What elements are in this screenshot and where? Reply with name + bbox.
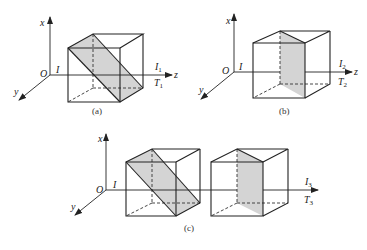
caption-b: (b) bbox=[279, 106, 290, 116]
x-label: x bbox=[97, 133, 103, 144]
figure-a: x y O I z I1 T1 (a) bbox=[13, 17, 178, 116]
origin-label: O bbox=[222, 65, 229, 76]
polarizer-plane-2 bbox=[237, 149, 263, 216]
output-label: I3 bbox=[304, 176, 312, 189]
caption-c: (c) bbox=[184, 223, 194, 233]
y-axis bbox=[201, 72, 234, 99]
x-label: x bbox=[225, 15, 231, 26]
origin-label: O bbox=[96, 184, 103, 195]
output-label: I2 bbox=[338, 58, 346, 71]
z-label: z bbox=[353, 66, 358, 77]
input-label: I bbox=[238, 61, 243, 72]
y-label: y bbox=[70, 201, 76, 212]
y-label: y bbox=[198, 84, 204, 95]
output-label: I1 bbox=[154, 61, 162, 74]
polarizer-plane-1 bbox=[126, 149, 200, 216]
z-label: z bbox=[173, 69, 178, 80]
figure-b: x y O I z I2 T2 (b) bbox=[198, 14, 358, 116]
diagram-canvas: x y O I z I1 T1 (a) x y O I z I2 T2 (b) bbox=[0, 0, 367, 250]
input-label: I bbox=[55, 64, 60, 75]
transmit-label: T2 bbox=[338, 76, 348, 89]
x-label: x bbox=[39, 17, 45, 28]
figure-c: x y O I I3 T3 (c) bbox=[70, 133, 318, 233]
caption-a: (a) bbox=[92, 106, 102, 116]
polarizer-plane bbox=[68, 34, 143, 102]
input-label: I bbox=[112, 179, 117, 190]
transmit-label: T3 bbox=[304, 194, 314, 207]
y-label: y bbox=[13, 86, 19, 97]
transmit-label: T1 bbox=[154, 77, 164, 90]
origin-label: O bbox=[40, 68, 47, 79]
